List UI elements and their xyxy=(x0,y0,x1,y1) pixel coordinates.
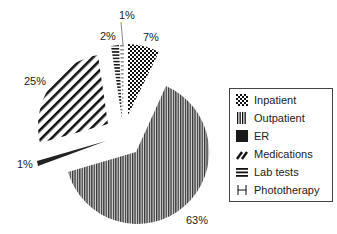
label-phototherapy: 1% xyxy=(119,9,135,21)
horizontal-lines-pattern-icon xyxy=(236,166,248,178)
legend-item-phototherapy: Phototherapy xyxy=(236,182,319,198)
label-medications: 25% xyxy=(24,75,46,87)
legend-item-inpatient: Inpatient xyxy=(236,92,296,108)
slice-inpatient xyxy=(128,44,159,115)
legend-item-lab-tests: Lab tests xyxy=(236,164,299,180)
slice-medications xyxy=(38,55,108,143)
solid-dark-pattern-icon xyxy=(236,130,248,142)
slice-er xyxy=(37,141,106,166)
leader-line xyxy=(121,22,123,45)
legend: Inpatient Outpatient ER Medications Lab … xyxy=(229,88,333,202)
slice-lab-tests xyxy=(111,45,122,119)
diagonal-lines-pattern-icon xyxy=(236,148,248,160)
label-lab-tests: 2% xyxy=(100,30,116,42)
legend-item-er: ER xyxy=(236,128,269,144)
label-outpatient: 63% xyxy=(186,214,208,226)
plus-cross-pattern-icon xyxy=(236,184,248,196)
vertical-lines-pattern-icon xyxy=(236,112,248,124)
legend-item-medications: Medications xyxy=(236,146,313,162)
legend-item-outpatient: Outpatient xyxy=(236,110,305,126)
label-er: 1% xyxy=(17,158,33,170)
checkerboard-pattern-icon xyxy=(236,94,248,106)
label-inpatient: 7% xyxy=(143,31,159,43)
